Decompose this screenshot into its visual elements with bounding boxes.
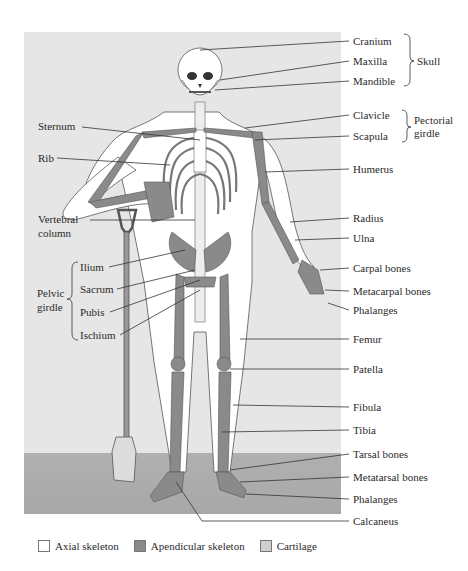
label-sternum: Sternum [38, 120, 75, 132]
label-phalanges-hand: Phalanges [353, 304, 398, 316]
legend-label-appendicular: Apendicular skeleton [151, 540, 245, 552]
legend-item-cartilage: Cartilage [260, 540, 317, 552]
label-cranium: Cranium [353, 35, 392, 47]
group-label-pectoral-1: Pectorial [414, 114, 453, 126]
label-pubis: Pubis [80, 306, 104, 318]
label-humerus: Humerus [353, 163, 393, 175]
label-mandible: Mandible [353, 75, 395, 87]
label-patella: Patella [353, 363, 383, 375]
group-label-skull: Skull [417, 55, 440, 67]
label-rib: Rib [38, 152, 54, 164]
legend-item-appendicular: Apendicular skeleton [134, 540, 245, 552]
label-tarsal-bones: Tarsal bones [353, 448, 408, 460]
label-ischium: Ischium [80, 329, 115, 341]
swatch-cartilage [260, 540, 272, 552]
group-label-pelvic-1: Pelvic [37, 287, 65, 299]
group-label-pelvic-2: girdle [37, 301, 63, 313]
label-column: column [38, 227, 71, 239]
label-femur: Femur [353, 333, 382, 345]
label-phalanges-foot: Phalanges [353, 493, 398, 505]
label-metatarsal-bones: Metatarsal bones [353, 471, 428, 483]
label-maxilla: Maxilla [353, 55, 387, 67]
legend-label-cartilage: Cartilage [277, 540, 317, 552]
label-radius: Radius [353, 212, 384, 224]
legend-label-axial: Axial skeleton [55, 540, 119, 552]
label-scapula: Scapula [353, 130, 388, 142]
label-ilium: Ilium [80, 261, 104, 273]
label-metacarpal-bones: Metacarpal bones [353, 285, 431, 297]
label-carpal-bones: Carpal bones [353, 262, 411, 274]
label-tibia: Tibia [353, 424, 376, 436]
label-clavicle: Clavicle [353, 109, 390, 121]
label-sacrum: Sacrum [80, 283, 114, 295]
legend-item-axial: Axial skeleton [38, 540, 119, 552]
label-vertebral: Vertebral [38, 213, 78, 225]
swatch-axial [38, 540, 50, 552]
label-ulna: Ulna [353, 232, 374, 244]
label-calcaneus: Calcaneus [353, 515, 398, 527]
legend: Axial skeleton Apendicular skeleton Cart… [38, 538, 332, 554]
swatch-appendicular [134, 540, 146, 552]
group-label-pectoral-2: girdle [414, 127, 440, 139]
label-fibula: Fibula [353, 401, 381, 413]
